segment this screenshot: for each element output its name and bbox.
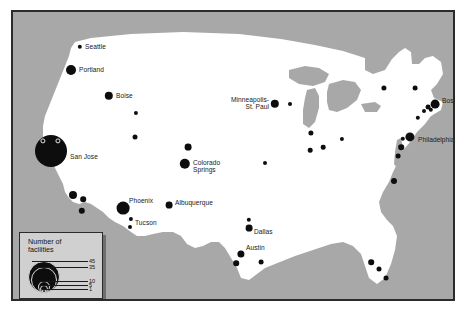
city-label-seattle: Seattle — [85, 43, 106, 50]
legend-leader-line-35 — [34, 267, 88, 268]
city-label-boston: Boston — [442, 97, 455, 104]
city-symbol[interactable] — [396, 154, 401, 159]
city-symbol[interactable] — [391, 178, 397, 184]
city-symbol[interactable] — [368, 259, 374, 265]
city-symbol[interactable] — [233, 260, 239, 266]
city-symbol[interactable] — [185, 144, 192, 151]
city-symbol[interactable] — [69, 191, 77, 199]
city-symbol[interactable] — [128, 225, 132, 229]
city-symbol[interactable] — [133, 135, 138, 140]
legend-title-line2: facilities — [28, 245, 54, 254]
city-symbol[interactable] — [422, 109, 426, 113]
city-label-tucson: Tucson — [135, 219, 157, 226]
legend-leader-line-45 — [32, 261, 88, 262]
city-symbol[interactable] — [321, 145, 326, 150]
city-symbol[interactable] — [398, 144, 404, 150]
city-symbol[interactable] — [80, 196, 86, 202]
city-symbol[interactable] — [413, 86, 418, 91]
city-symbol[interactable] — [377, 267, 382, 272]
map-frame: SeattlePortlandBoiseSan JosePhoenixTucso… — [11, 10, 455, 301]
city-symbol-boston[interactable] — [431, 100, 440, 109]
map-figure: SeattlePortlandBoiseSan JosePhoenixTucso… — [0, 0, 466, 313]
legend-leader-line-1 — [43, 289, 89, 290]
map-legend: Number offacilities 45351051 — [19, 232, 103, 299]
city-label-minneapolis-st-paul: Minneapolis- St. Paul — [231, 96, 269, 111]
city-label-boise: Boise — [116, 92, 133, 99]
city-label-dallas: Dallas — [254, 228, 273, 235]
city-label-albuquerque: Albuquerque — [175, 199, 213, 206]
city-symbol[interactable] — [259, 260, 264, 265]
city-symbol-portland[interactable] — [66, 65, 76, 75]
legend-leader-line-5 — [41, 285, 88, 286]
city-symbol-albuquerque[interactable] — [166, 202, 173, 209]
city-symbol-dallas[interactable] — [246, 225, 253, 232]
legend-value-1: 1 — [89, 286, 92, 292]
city-label-phoenix: Phoenix — [129, 197, 153, 204]
city-label-san-jose: San Jose — [70, 153, 98, 160]
legend-title: Number offacilities — [28, 238, 62, 255]
city-symbol[interactable] — [308, 148, 313, 153]
city-label-portland: Portland — [79, 66, 104, 73]
city-symbol[interactable] — [288, 102, 292, 106]
city-label-colorado-springs: Colorado Springs — [193, 159, 220, 174]
legend-value-35: 35 — [89, 264, 95, 270]
city-label-austin: Austin — [246, 244, 265, 251]
city-symbol[interactable] — [384, 276, 389, 281]
city-symbol[interactable] — [263, 161, 267, 165]
city-symbol-phoenix[interactable] — [117, 202, 130, 215]
legend-leader-line-10 — [39, 281, 88, 282]
city-label-philadelphia: Philadelphia — [418, 136, 455, 143]
